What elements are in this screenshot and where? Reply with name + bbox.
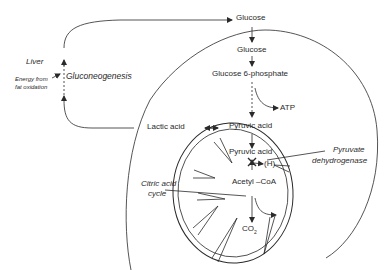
liver-loop-top [64,20,232,48]
label-atp: ATP [280,104,295,112]
label-pdh-line1: Pyruvate [333,146,365,154]
label-pdh-line2: dehydrogenase [312,157,367,165]
co2-text: CO [242,224,254,233]
label-energy-line1: Energy from [15,76,48,82]
label-cac-line2: cycle [148,190,166,198]
label-hydrogen: (H) [264,160,275,168]
mitochondrion-outer [169,120,296,266]
label-co2: CO2 [242,225,257,235]
label-lactic-acid: Lactic acid [147,123,185,131]
co2-subscript: 2 [254,229,257,235]
label-energy-line2: fat oxidation [15,84,47,90]
label-pyruvic-acid-mitochondrion: Pyruvic acid [229,148,272,156]
label-gluconeogenesis: Gluconeogenesis [66,72,132,81]
diagram-canvas [0,0,387,270]
label-glucose-blood: Glucose [236,14,265,22]
label-acetyl-coa: Acetyl –CoA [232,178,276,186]
label-glucose-6-phosphate: Glucose 6-phosphate [212,70,288,78]
label-cac-line1: Citric acid [141,180,176,188]
liver-loop-bottom [64,100,134,128]
label-pyruvic-acid-cytosol: Pyruvic acid [229,122,272,130]
label-glucose-cell: Glucose [237,46,266,54]
label-liver: Liver [26,58,43,66]
